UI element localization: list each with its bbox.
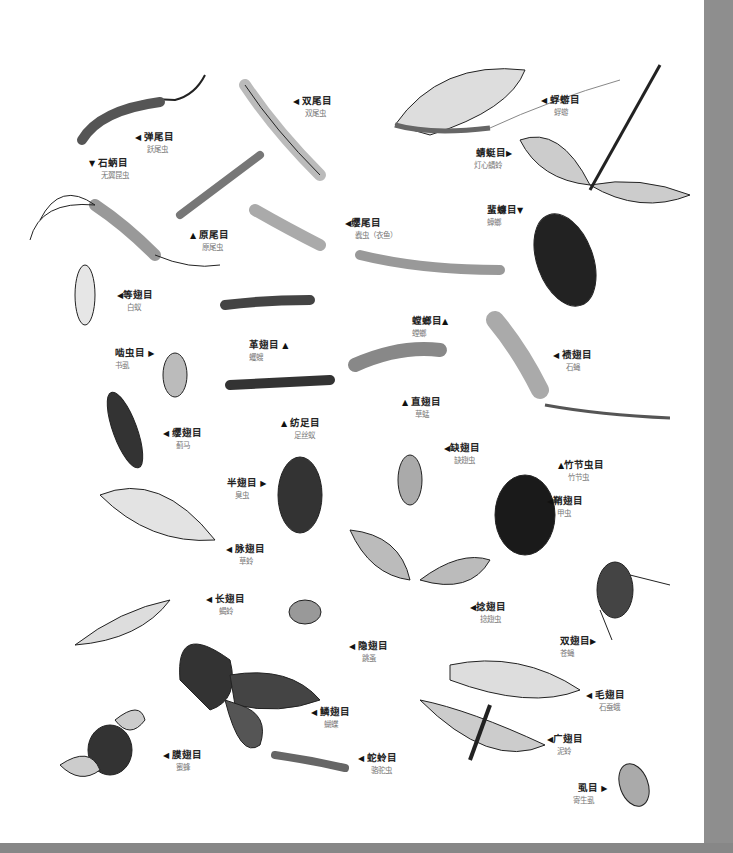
label-diptera: 双翅目▶苍蝇 [560,636,596,658]
label-siphonaptera: ◀ 隐翅目跳蚤 [349,641,388,663]
pointer-up-icon: ▲ [281,419,287,428]
pointer-left-icon: ◀ [311,708,317,717]
label-zoraptera: ◀缺翅目缺翅虫 [444,443,480,465]
pointer-left-icon: ◀ [163,751,169,760]
pointer-right-icon: ▶ [506,149,512,158]
label-megaloptera: ◀广翅目泥蛉 [547,734,583,756]
label-blattodea: 蜚蠊目▼蟑螂 [487,205,523,227]
label-neuroptera: ◀ 脉翅目草蛉 [226,544,265,566]
label-phthiraptera: 虱目 ▶寄生虱 [578,783,607,805]
pointer-up-icon: ▲ [282,341,288,350]
order-name: ◀ 弹尾目 [135,132,174,142]
insect-orders-page: ◀ 弹尾目跃尾虫 ◀ 双尾目双尾虫 ▼ 石蛃目无翼昆虫 ▲ 原尾目原尾虫 ◀缨尾… [0,0,704,843]
label-archaeognatha: ▼ 石蛃目无翼昆虫 [89,158,129,180]
label-coleoptera: ◀鞘翅目甲虫 [547,496,583,518]
label-dermaptera: 革翅目 ▲蠼螋 [249,340,288,362]
pointer-right-icon: ▶ [590,637,596,646]
pointer-left-icon: ◀ [135,133,141,142]
label-embioptera: ▲ 纺足目足丝蚁 [281,418,320,440]
pointer-right-icon: ▶ [601,784,607,793]
label-thysanura: ◀缨尾目蠹虫（衣鱼） [345,218,397,240]
pointer-left-icon: ◀ [163,429,169,438]
pointer-right-icon: ▶ [148,349,154,358]
pointer-up-icon: ▲ [442,317,448,326]
pointer-right-icon: ▶ [260,479,266,488]
pointer-left-icon: ◀ [586,691,592,700]
label-diplura: ◀ 双尾目双尾虫 [293,96,332,118]
label-isoptera: ◀等翅目白蚁 [117,290,153,312]
pointer-up-icon: ▲ [190,231,196,240]
page-edge-right [704,0,733,853]
pointer-left-icon: ◀ [226,545,232,554]
label-mantodea: 螳螂目▲螳螂 [412,316,448,338]
label-hymenoptera: ◀ 膜翅目蜜蜂 [163,750,202,772]
label-lepidoptera: ◀ 鳞翅目蝴蝶 [311,707,350,729]
label-protura: ▲ 原尾目原尾虫 [190,230,229,252]
pointer-left-icon: ◀ [541,96,547,105]
pointer-left-icon: ◀ [553,351,559,360]
label-trichoptera: ◀ 毛翅目石蚕蛾 [586,690,625,712]
label-hemiptera: 半翅目 ▶臭虫 [227,478,266,500]
pointer-left-icon: ◀ [293,97,299,106]
label-collembola: ◀ 弹尾目跃尾虫 [135,132,174,154]
pointer-left-icon: ◀ [349,642,355,651]
pointer-left-icon: ◀ [358,754,364,763]
label-strepsiptera: ◀捻翅目捻翅虫 [470,602,506,624]
label-phasmida: ▲竹节虫目竹节虫 [558,460,604,482]
label-mecoptera: ◀ 长翅目蝎蛉 [206,594,245,616]
page-edge-bottom [0,843,733,853]
label-plecoptera: ◀ 𫌀翅目石蝇 [553,350,592,372]
label-ephemeroptera: ◀ 蜉蝣目蜉蝣 [541,95,580,117]
label-thysanoptera: ◀ 缨翅目蓟马 [163,428,202,450]
label-orthoptera: ▲ 直翅目草蜢 [402,397,441,419]
pointer-up-icon: ▲ [402,398,408,407]
pointer-left-icon: ◀ [206,595,212,604]
insect-illustrations [0,0,704,843]
label-psocoptera: 啮虫目 ▶书虱 [115,348,154,370]
pointer-down-icon: ▼ [517,206,523,215]
label-odonata: 蜻蜓目▶灯心蜻蛉 [476,148,512,170]
pointer-down-icon: ▼ [89,159,95,168]
label-raphidioptera: ◀ 蛇蛉目骆驼虫 [358,753,397,775]
